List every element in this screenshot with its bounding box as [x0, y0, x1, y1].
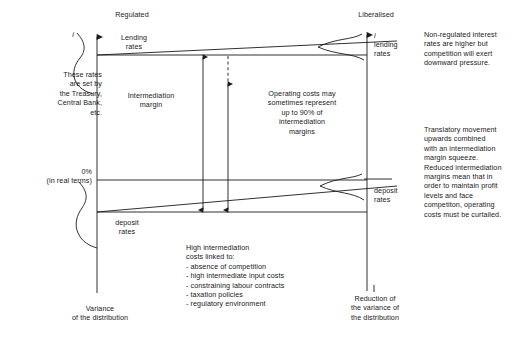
label-reduction-of-variance: Reduction of the variance of the distrib… [336, 294, 414, 322]
diagram-canvas: Regulated Liberalised i i Lending rates … [0, 0, 530, 341]
label-in-real-terms: (in real terms) [18, 176, 92, 185]
label-zero-percent: 0% [56, 167, 92, 176]
label-regulated: Regulated [82, 10, 182, 19]
note-left-regulated-rates: These rates are set by the Treasury, Cen… [12, 70, 102, 117]
deposit-slope-line [97, 186, 397, 212]
note-high-intermediation-costs: High intermediation costs linked to: - a… [186, 243, 336, 309]
right-lending-distribution-curve-2 [318, 47, 364, 60]
label-deposit-rates-right: deposit rates [374, 186, 422, 205]
axis-symbol-right: i [374, 31, 384, 40]
label-deposit-rates-left: deposit rates [98, 218, 156, 237]
right-deposit-distribution-curve-2 [320, 186, 364, 200]
label-operating-costs: Operating costs may sometimes represent … [248, 89, 356, 136]
label-variance-of-distribution: Variance of the distribution [56, 304, 144, 323]
axis-symbol-left: i [66, 30, 80, 39]
label-lending-rates-left: Lending rates [104, 33, 164, 52]
note-non-regulated-rates: Non-regulated interest rates are higher … [424, 30, 526, 68]
right-lending-distribution-curve [318, 34, 362, 47]
label-intermediation-margin: Intermediation margin [108, 91, 194, 110]
note-translatory-movement: Translatory movement upwards combined wi… [424, 125, 528, 219]
label-lending-rates-right: lending rates [374, 40, 422, 59]
label-liberalised: Liberalised [326, 10, 426, 19]
left-deposit-distribution-curve [76, 182, 97, 248]
